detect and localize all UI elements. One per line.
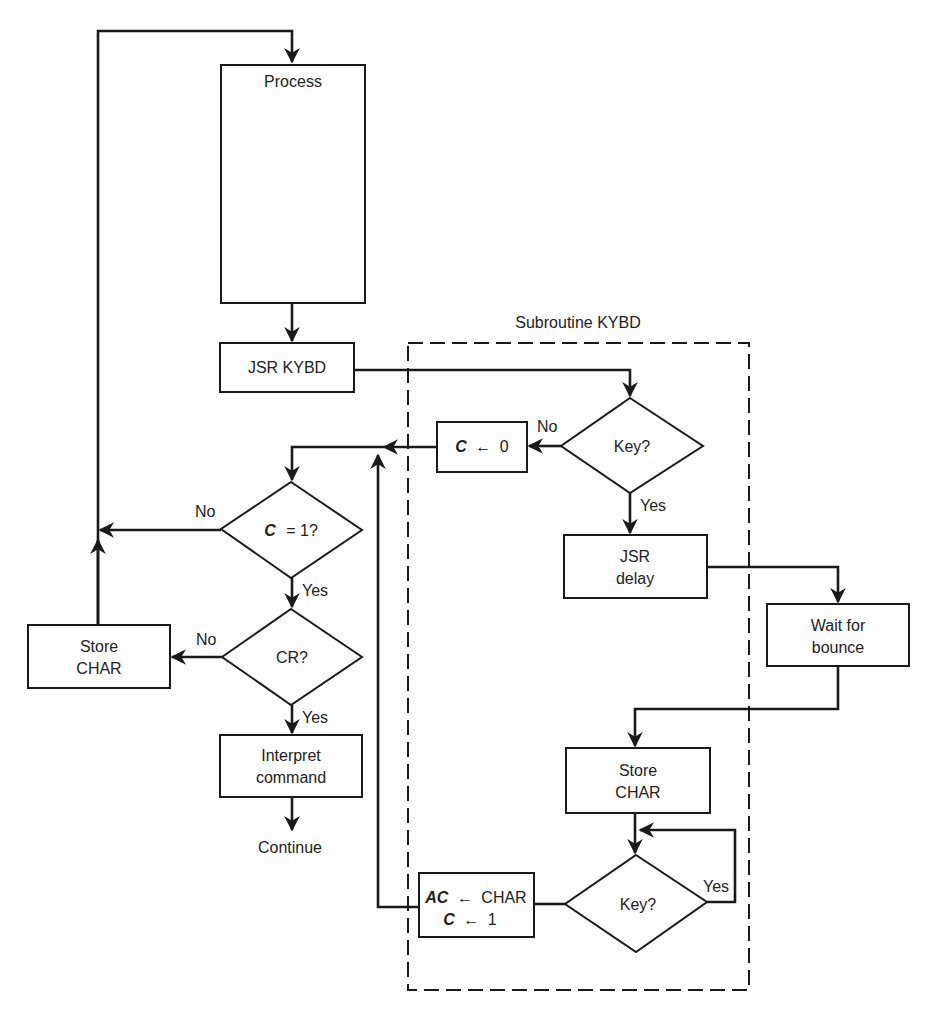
c-var: C xyxy=(455,438,467,455)
cr-no-label: No xyxy=(196,631,217,648)
store-char-left-line2: CHAR xyxy=(76,660,121,677)
node-interpret-command: Interpret command xyxy=(220,735,362,797)
store-char-left-line1: Store xyxy=(80,638,118,655)
node-store-char-left: Store CHAR xyxy=(28,625,170,688)
assign-arrow: ← xyxy=(475,438,491,455)
edge-to-c-eq-1 xyxy=(292,447,384,480)
c-eq-1-rest: = 1? xyxy=(286,522,318,539)
node-process: Process xyxy=(221,65,365,303)
process-label: Process xyxy=(264,73,322,90)
jsr-delay-line2: delay xyxy=(616,570,654,587)
cr-label: CR? xyxy=(276,649,308,666)
node-store-char-right: Store CHAR xyxy=(566,748,710,813)
ac-var: AC xyxy=(424,889,449,906)
continue-label: Continue xyxy=(258,839,322,856)
edge-jsr-kybd-to-key1 xyxy=(354,370,630,396)
interpret-line1: Interpret xyxy=(261,747,321,764)
assign-arrow: ← xyxy=(457,889,473,906)
c1-yes-label: Yes xyxy=(302,582,328,599)
ac-val: CHAR xyxy=(481,889,526,906)
node-cr-decision: CR? xyxy=(222,609,362,705)
jsr-delay-line1: JSR xyxy=(620,548,650,565)
key2-yes-label: Yes xyxy=(703,878,729,895)
node-key2-decision: Key? xyxy=(565,855,707,952)
svg-text:C ← 1: C ← 1 xyxy=(443,911,496,928)
assign-arrow: ← xyxy=(463,911,479,928)
edge-wait-to-store xyxy=(635,666,838,746)
flowchart-canvas: Subroutine KYBD xyxy=(0,0,939,1016)
c-one-val: 1 xyxy=(488,911,497,928)
c-var: C xyxy=(443,911,455,928)
node-c-eq-1-decision: C = 1? xyxy=(221,482,362,578)
wait-line1: Wait for xyxy=(811,617,866,634)
key2-label: Key? xyxy=(620,896,657,913)
edge-delay-to-wait xyxy=(707,567,838,602)
interpret-line2: command xyxy=(256,769,326,786)
store-char-right-line2: CHAR xyxy=(615,784,660,801)
key1-no-label: No xyxy=(537,418,558,435)
c-zero-val: 0 xyxy=(500,438,509,455)
svg-text:C ← 0: C ← 0 xyxy=(455,438,508,455)
node-ac-assign: AC ← CHAR C ← 1 xyxy=(419,873,534,937)
key1-label: Key? xyxy=(614,438,651,455)
node-key1-decision: Key? xyxy=(561,398,703,493)
key1-yes-label: Yes xyxy=(640,497,666,514)
c1-no-label: No xyxy=(195,503,216,520)
node-c-zero: C ← 0 xyxy=(437,422,527,472)
edge-ac-return xyxy=(378,455,419,907)
jsr-kybd-label: JSR KYBD xyxy=(248,359,326,376)
node-wait-for-bounce: Wait for bounce xyxy=(767,604,909,666)
node-jsr-kybd: JSR KYBD xyxy=(220,343,354,392)
subroutine-title: Subroutine KYBD xyxy=(515,314,640,331)
node-jsr-delay: JSR delay xyxy=(564,535,707,598)
store-char-right-line1: Store xyxy=(619,762,657,779)
wait-line2: bounce xyxy=(812,639,865,656)
svg-text:AC ← CHAR: AC ← CHAR xyxy=(424,889,526,906)
c-var: C xyxy=(264,522,276,539)
svg-text:C = 1?: C = 1? xyxy=(264,522,318,539)
cr-yes-label: Yes xyxy=(302,709,328,726)
